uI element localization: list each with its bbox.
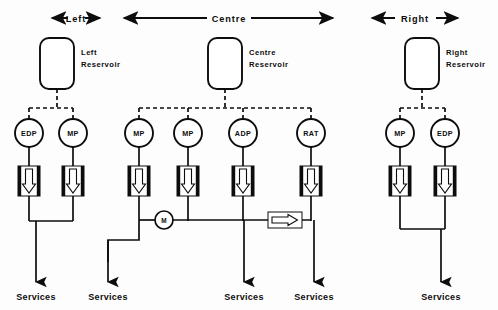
pump-left-edp[interactable]: EDP [15, 119, 43, 147]
service-outlets-group [36, 220, 441, 282]
centre-reservoir-label-line2: Reservoir [249, 60, 289, 69]
pump-right-edp-label: EDP [437, 129, 453, 138]
pump-centre-mp-2-label: MP [182, 129, 194, 138]
pump-left-mp[interactable]: MP [59, 119, 87, 147]
right-reservoir-label-line1: Right [446, 48, 468, 57]
pump-right-mp-label: MP [394, 129, 406, 138]
motor-pump-label: M [161, 217, 166, 224]
right-reservoir-shape [405, 38, 439, 89]
pump-centre-mp-1-label: MP [133, 129, 145, 138]
valve-left-edp-bar-right [37, 166, 40, 196]
valve-left-edp-bar-left [18, 166, 21, 196]
valve-right-mp-bar-left [389, 166, 392, 196]
reservoirs-group: Left Reservoir Centre Reservoir Right Re… [40, 38, 486, 89]
pump-centre-adp-label: ADP [235, 129, 251, 138]
pumps-group: EDP MP MP MP ADP RAT [15, 119, 459, 147]
valve-right-edp-bar-left [434, 166, 437, 196]
span-arrows-group: Left Centre Right [52, 14, 458, 24]
centre-suction-manifold [139, 89, 311, 119]
left-reservoir-label-line1: Left [81, 48, 97, 57]
centre-reservoir-shape [208, 38, 242, 89]
pump-left-mp-label: MP [67, 129, 79, 138]
valve-left-mp-bar-right [81, 166, 84, 196]
services-left-2-label: Services [88, 292, 127, 302]
left-reservoir-shape [40, 38, 74, 89]
valve-centre-rat [300, 166, 322, 196]
valve-right-mp-bar-right [408, 166, 411, 196]
suction-lines-group [29, 89, 445, 119]
hydraulic-system-diagram: Left Centre Right Left Reservoir [0, 0, 498, 310]
service-labels-group: Services Services Services Services Serv… [16, 292, 460, 302]
valve-centre-mp-1-bar-left [128, 166, 131, 196]
valve-centre-mp-1 [128, 166, 150, 196]
pump-left-edp-label: EDP [21, 129, 37, 138]
span-label-right: Right [401, 14, 429, 24]
valve-centre-mp-2 [177, 166, 199, 196]
valve-left-mp [62, 166, 84, 196]
valve-left-edp [18, 166, 40, 196]
pump-centre-mp-2[interactable]: MP [174, 119, 202, 147]
span-label-left: Left [66, 14, 86, 24]
valve-centre-adp-bar-left [232, 166, 235, 196]
span-arrow-centre: Centre [124, 14, 333, 24]
pump-centre-rat-label: RAT [303, 129, 319, 138]
services-centre-1-label: Services [224, 292, 263, 302]
left-reservoir-label-line2: Reservoir [81, 60, 121, 69]
motor-pump[interactable]: M [155, 211, 173, 229]
centre-reservoir-label-line1: Centre [249, 48, 276, 57]
services-left-1-label: Services [16, 292, 55, 302]
services-centre-2-label: Services [294, 292, 333, 302]
check-valves-group [18, 166, 456, 196]
valve-centre-rat-bar-left [300, 166, 303, 196]
pressure-manifolds-group [29, 220, 445, 262]
pump-centre-adp[interactable]: ADP [229, 119, 257, 147]
valve-centre-mp-2-bar-right [196, 166, 199, 196]
valve-centre-rat-bar-right [319, 166, 322, 196]
centre-reservoir: Centre Reservoir [208, 38, 289, 89]
pump-centre-rat[interactable]: RAT [297, 119, 325, 147]
services-right-1-label: Services [421, 292, 460, 302]
valve-centre-mp-2-bar-left [177, 166, 180, 196]
schematic-canvas: Left Centre Right Left Reservoir [0, 0, 498, 310]
valve-right-edp-bar-right [453, 166, 456, 196]
left-suction-manifold [29, 89, 73, 119]
valve-right-mp [389, 166, 411, 196]
motor-branch-to-services [108, 221, 139, 262]
inline-nonreturn-valve [268, 212, 302, 228]
span-label-centre: Centre [212, 14, 247, 24]
valve-left-mp-bar-left [62, 166, 65, 196]
pump-right-mp[interactable]: MP [386, 119, 414, 147]
right-suction-manifold [400, 89, 445, 119]
valve-centre-adp [232, 166, 254, 196]
span-arrow-right: Right [372, 14, 458, 24]
span-arrow-left: Left [52, 14, 100, 24]
valve-right-edp [434, 166, 456, 196]
right-reservoir-label-line2: Reservoir [446, 60, 486, 69]
valve-centre-mp-1-bar-right [147, 166, 150, 196]
left-reservoir: Left Reservoir [40, 38, 121, 89]
pump-centre-mp-1[interactable]: MP [125, 119, 153, 147]
right-reservoir: Right Reservoir [405, 38, 486, 89]
valve-centre-adp-bar-right [251, 166, 254, 196]
pump-right-edp[interactable]: EDP [431, 119, 459, 147]
